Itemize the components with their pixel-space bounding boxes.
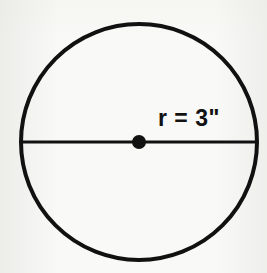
circle-diagram-figure: r = 3" <box>0 0 267 273</box>
circle-diagram-canvas <box>0 0 267 273</box>
center-point-dot <box>132 135 146 149</box>
radius-label: r = 3" <box>158 107 220 130</box>
